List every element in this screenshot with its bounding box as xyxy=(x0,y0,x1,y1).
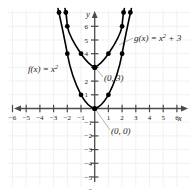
y-axis-name: y xyxy=(85,9,90,19)
x-tick-label: 3 xyxy=(134,114,138,122)
y-tick-label: 6 xyxy=(85,23,89,31)
data-point xyxy=(79,51,84,56)
x-tick-label: −4 xyxy=(36,114,44,122)
x-tick-label: 2 xyxy=(120,114,124,122)
x-tick-label: −2 xyxy=(64,114,72,122)
point-label-origin: (0, 0) xyxy=(111,126,131,136)
y-tick-label: −5 xyxy=(85,174,93,182)
function-label-f-base: f(x) = x xyxy=(28,64,55,74)
data-point xyxy=(106,51,111,56)
function-label-g-tail: + 3 xyxy=(166,33,182,43)
y-tick-label: −6 xyxy=(85,187,93,190)
x-tick-label: 4 xyxy=(148,114,152,122)
y-tick-label: 5 xyxy=(85,37,89,45)
data-point xyxy=(65,51,70,56)
data-point xyxy=(57,10,62,15)
x-tick-label: 5 xyxy=(161,114,165,122)
data-point xyxy=(106,92,111,97)
point-label-intercept: (0, 3) xyxy=(104,73,124,83)
x-tick-labels: −6 −5 −4 −3 −2 −1 1 2 3 4 5 6 xyxy=(9,114,179,122)
leader-line-0-3 xyxy=(96,68,104,77)
function-label-g: g(x) = x2 + 3 xyxy=(134,33,182,44)
data-point xyxy=(63,10,68,15)
x-tick-label: −3 xyxy=(50,114,58,122)
data-point xyxy=(120,51,125,56)
x-axis-arrow-left xyxy=(14,106,21,112)
x-tick-label: 1 xyxy=(107,114,111,122)
data-point xyxy=(121,10,126,15)
y-axis xyxy=(92,11,98,182)
function-label-g-base: g(x) = x xyxy=(134,33,163,43)
x-axis-name: x xyxy=(177,113,182,123)
leader-line-g xyxy=(119,38,133,45)
data-point xyxy=(128,10,133,15)
y-tick-label: −3 xyxy=(85,146,93,154)
x-tick-label: −5 xyxy=(22,114,30,122)
y-axis-arrow-up xyxy=(92,11,98,18)
data-point-vertex xyxy=(92,65,97,70)
x-tick-label: −6 xyxy=(9,114,17,122)
y-tick-label: −2 xyxy=(85,132,93,140)
function-label-f-exponent: 2 xyxy=(55,64,58,70)
y-tick-label: −1 xyxy=(85,119,93,127)
data-point-origin xyxy=(92,106,97,111)
parabola-graph-figure: −6 −5 −4 −3 −2 −1 1 2 3 4 5 6 1 2 4 5 6 … xyxy=(0,0,196,190)
function-label-f: f(x) = x2 xyxy=(28,64,58,75)
coordinate-plane: −6 −5 −4 −3 −2 −1 1 2 3 4 5 6 1 2 4 5 6 … xyxy=(0,0,196,190)
y-tick-label: 2 xyxy=(85,78,89,86)
y-tick-label: 1 xyxy=(85,91,89,99)
y-tick-label: 4 xyxy=(85,50,89,58)
x-axis-arrow-right xyxy=(181,106,188,112)
data-point xyxy=(79,92,84,97)
data-point xyxy=(120,24,125,29)
y-tick-label: −4 xyxy=(85,160,93,168)
data-point xyxy=(65,24,70,29)
